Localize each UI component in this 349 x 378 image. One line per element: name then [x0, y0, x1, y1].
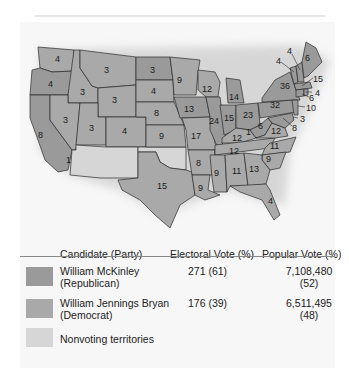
- label-rhode-island: 4: [315, 88, 320, 98]
- label-arkansas: 8: [196, 158, 201, 168]
- label-delaware: 3: [300, 114, 305, 124]
- header-divider: [20, 256, 335, 257]
- label-north-carolina: 11: [270, 141, 279, 151]
- state-kansas: [146, 125, 186, 147]
- candidate-party: (Democrat): [60, 309, 169, 321]
- label-wyoming: 3: [112, 95, 117, 105]
- electoral-vote: 176 (39): [188, 297, 227, 309]
- label-california-split: 1: [66, 155, 71, 165]
- label-louisiana: 9: [198, 183, 203, 193]
- label-colorado: 4: [122, 126, 127, 136]
- label-kentucky-split: 1: [246, 127, 251, 137]
- label-new-hampshire: 4: [287, 46, 292, 56]
- label-new-jersey: 10: [306, 103, 316, 113]
- label-michigan: 14: [229, 92, 239, 102]
- label-nebraska: 8: [154, 108, 159, 118]
- label-pennsylvania: 32: [270, 100, 280, 110]
- legend-header: Candidate (Party) Electoral Vote (%) Pop…: [0, 244, 349, 262]
- electoral-vote: 271 (61): [188, 265, 227, 277]
- label-florida: 4: [268, 196, 273, 206]
- label-west-virginia: 6: [258, 121, 263, 131]
- label-new-york: 36: [280, 81, 290, 91]
- candidate-party: (Republican): [60, 277, 139, 289]
- label-illinois: 24: [209, 116, 219, 126]
- label-connecticut: 6: [309, 93, 314, 103]
- label-nevada: 3: [63, 115, 68, 125]
- swatch-democrat: [26, 299, 53, 318]
- label-kansas: 9: [159, 131, 164, 141]
- label-minnesota: 9: [177, 75, 182, 85]
- label-massachusetts: 15: [313, 74, 323, 84]
- popular-vote: 7,108,480: [284, 265, 334, 277]
- label-mississippi: 9: [214, 168, 219, 178]
- label-georgia: 13: [249, 164, 259, 174]
- label-idaho: 3: [80, 87, 85, 97]
- header-candidate: Candidate (Party): [60, 248, 142, 260]
- label-maine: 6: [305, 53, 310, 63]
- label-wisconsin: 12: [202, 84, 212, 94]
- election-map: 4 4 8 1 3 3 3 3 3 4 3 4 8 9 15 9 13 17 8…: [0, 0, 349, 240]
- label-oregon: 4: [48, 79, 53, 89]
- label-ohio: 23: [243, 110, 253, 120]
- swatch-nonvoting: [26, 328, 53, 347]
- label-north-dakota: 3: [150, 65, 155, 75]
- label-alabama: 11: [232, 166, 241, 176]
- popular-vote: 6,511,495: [284, 297, 334, 309]
- popular-pct: (52): [284, 277, 334, 289]
- label-utah: 3: [89, 123, 94, 133]
- candidate-name: William McKinley: [60, 265, 139, 277]
- label-california: 8: [38, 130, 43, 140]
- label-missouri: 17: [191, 131, 201, 141]
- candidate-name: William Jennings Bryan: [60, 297, 169, 309]
- label-indiana: 15: [224, 113, 234, 123]
- label-tennessee: 12: [229, 146, 239, 156]
- us-map-svg: 4 4 8 1 3 3 3 3 3 4 3 4 8 9 15 9 13 17 8…: [0, 0, 349, 240]
- nonvoting-label: Nonvoting territories: [60, 333, 154, 345]
- label-south-dakota: 4: [151, 86, 156, 96]
- header-popular: Popular Vote (%): [262, 248, 341, 260]
- label-montana: 3: [104, 65, 109, 75]
- popular-pct: (48): [284, 309, 334, 321]
- state-minnesota: [170, 57, 200, 95]
- label-texas: 15: [157, 181, 167, 191]
- label-washington: 4: [55, 54, 60, 64]
- territory-arizona-new-mexico: [70, 145, 138, 178]
- label-vermont: 4: [276, 56, 281, 66]
- label-iowa: 13: [184, 104, 194, 114]
- header-electoral: Electoral Vote (%): [170, 248, 254, 260]
- state-connecticut: [296, 89, 304, 97]
- label-maryland: 8: [292, 123, 297, 133]
- label-south-carolina: 9: [266, 154, 271, 164]
- label-kentucky: 12: [232, 133, 242, 143]
- label-virginia: 12: [271, 126, 281, 136]
- swatch-republican: [26, 267, 53, 286]
